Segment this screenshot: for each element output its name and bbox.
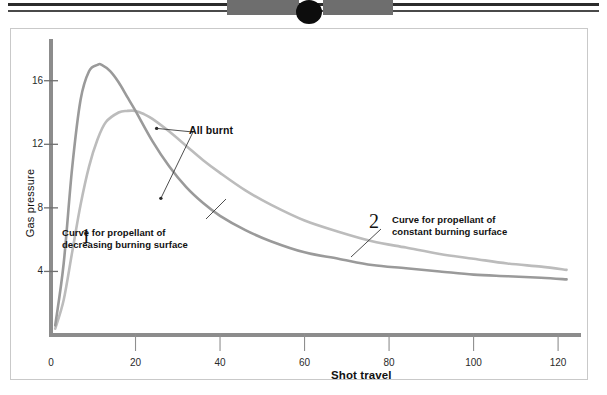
- scan-edge-artifact: [0, 0, 607, 22]
- artifact-block-right: [323, 0, 393, 15]
- x-tick-label-0: 0: [37, 357, 65, 368]
- x-axis-label: Shot travel: [331, 369, 392, 381]
- curve-2-note: Curve for propellant of constant burning…: [392, 214, 507, 237]
- x-tick-label-100: 100: [460, 357, 488, 368]
- curve-2-number: 2: [369, 210, 379, 233]
- y-tick-label-12: 12: [27, 138, 43, 149]
- x-tick-label-20: 20: [122, 357, 150, 368]
- x-tick-label-120: 120: [544, 357, 572, 368]
- y-tick-label-16: 16: [27, 75, 43, 86]
- curve-1-note-line1: Curve for propellant of: [62, 227, 188, 239]
- curve-2-note-line1: Curve for propellant of: [392, 214, 507, 226]
- chart-canvas: [11, 29, 587, 379]
- curve-1-note: Curve for propellant of decreasing burni…: [62, 227, 188, 250]
- series-line-1: [55, 64, 566, 325]
- artifact-dot: [296, 0, 322, 24]
- all-burnt-leader-dot-1: [155, 127, 158, 130]
- y-tick-label-8: 8: [27, 202, 43, 213]
- chart-figure: Gas pressure Shot travel All burnt 1 Cur…: [10, 28, 588, 380]
- annotation-all-burnt: All burnt: [189, 124, 233, 136]
- artifact-block-left: [227, 0, 299, 15]
- y-tick-label-4: 4: [27, 265, 43, 276]
- x-tick-label-80: 80: [375, 357, 403, 368]
- all-burnt-leader-dot-2: [159, 197, 162, 200]
- all-burnt-leader-1: [157, 128, 193, 132]
- x-tick-label-60: 60: [291, 357, 319, 368]
- curve-2-note-line2: constant burning surface: [392, 226, 507, 238]
- x-tick-label-40: 40: [206, 357, 234, 368]
- curve-1-note-line2: decreasing burning surface: [62, 239, 188, 251]
